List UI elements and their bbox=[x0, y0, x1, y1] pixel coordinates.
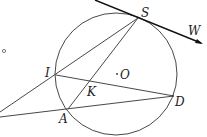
segment-s-i-extended bbox=[0, 18, 138, 112]
segment-d-a-extended bbox=[0, 96, 174, 117]
label-i: I bbox=[44, 66, 50, 80]
label-s: S bbox=[141, 6, 149, 20]
label-w: W bbox=[188, 24, 202, 38]
label-o: O bbox=[120, 68, 130, 82]
segment-s-a bbox=[68, 18, 138, 109]
geometry-diagram: S W I O K D A bbox=[0, 0, 207, 137]
label-d: D bbox=[174, 95, 185, 109]
small-degree-marker bbox=[2, 49, 5, 52]
segment-i-d bbox=[56, 75, 174, 96]
label-k: K bbox=[86, 85, 97, 99]
arrow-head-icon bbox=[195, 39, 203, 44]
main-circle bbox=[55, 13, 177, 135]
label-a: A bbox=[58, 112, 68, 126]
center-dot bbox=[116, 73, 118, 75]
